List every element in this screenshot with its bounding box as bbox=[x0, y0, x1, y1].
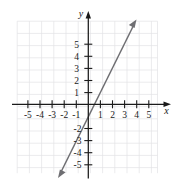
y-axis-label: y bbox=[78, 8, 84, 19]
x-tick-label: 4 bbox=[134, 110, 139, 120]
graph-svg: y x bbox=[0, 0, 178, 182]
x-tick-label: 5 bbox=[146, 110, 151, 120]
y-tick-label: -3 bbox=[74, 136, 82, 146]
x-tick-label: 2 bbox=[110, 110, 115, 120]
x-tick-label: -4 bbox=[36, 110, 44, 120]
x-axis-label: x bbox=[163, 105, 169, 116]
y-tick-label: 1 bbox=[74, 88, 79, 98]
x-tick-label: -5 bbox=[24, 110, 32, 120]
x-tick-label: 3 bbox=[122, 110, 127, 120]
x-tick-label: -3 bbox=[48, 110, 56, 120]
y-tick-label: -5 bbox=[74, 160, 82, 170]
y-tick-label: -4 bbox=[74, 148, 82, 158]
x-tick-label: 1 bbox=[98, 110, 103, 120]
x-tick-label: -2 bbox=[60, 110, 68, 120]
y-tick-label: 5 bbox=[74, 40, 79, 50]
y-tick-label: 2 bbox=[74, 76, 79, 86]
y-tick-label: 3 bbox=[74, 64, 79, 74]
x-tick-label: -1 bbox=[72, 110, 80, 120]
coordinate-plane-figure: y x bbox=[0, 0, 178, 182]
y-tick-label: 4 bbox=[74, 52, 79, 62]
y-tick-label: -2 bbox=[74, 124, 82, 134]
